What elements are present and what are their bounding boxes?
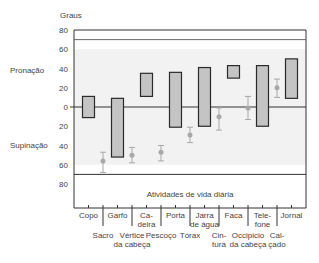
data-point bbox=[130, 153, 135, 158]
band-label: Atividades de vida diária bbox=[147, 190, 234, 199]
category-label: Ca- bbox=[140, 211, 153, 220]
y-axis-title: Graus bbox=[60, 11, 82, 20]
category-label: Porta bbox=[166, 211, 186, 220]
range-bar bbox=[141, 73, 153, 96]
range-bar bbox=[83, 96, 95, 117]
category-label: fone bbox=[255, 220, 271, 229]
category-label: Faca bbox=[225, 211, 243, 220]
y-tick-label: 20 bbox=[59, 122, 68, 131]
data-point bbox=[217, 114, 222, 119]
y-tick-label: 80 bbox=[59, 180, 68, 189]
y-tick-label: 0 bbox=[64, 103, 69, 112]
data-point bbox=[246, 105, 251, 110]
point-label: Sacro bbox=[93, 231, 114, 240]
category-label: de água bbox=[190, 220, 219, 229]
chart: 80604020020406080 CopoGarfoCa-deiraPorta… bbox=[0, 0, 319, 263]
supination-label: Supinação bbox=[10, 141, 48, 150]
range-bar bbox=[112, 98, 124, 157]
category-label: Garfo bbox=[107, 211, 128, 220]
range-bar bbox=[170, 72, 182, 127]
point-label: Cal- bbox=[270, 231, 285, 240]
data-point bbox=[275, 85, 280, 90]
y-axis: 80604020020406080 bbox=[59, 26, 74, 189]
category-label: Copo bbox=[79, 211, 99, 220]
point-label: Vértice bbox=[120, 231, 145, 240]
point-label: Cin- bbox=[212, 231, 227, 240]
data-point bbox=[188, 132, 193, 137]
point-label: Occipicio bbox=[232, 231, 265, 240]
category-label: deira bbox=[138, 220, 156, 229]
point-label: tura bbox=[212, 240, 226, 249]
range-bar bbox=[257, 66, 269, 127]
data-point bbox=[159, 150, 164, 155]
point-label: Tórax bbox=[180, 231, 200, 240]
y-tick-label: 60 bbox=[59, 161, 68, 170]
point-label: da cabeça bbox=[230, 240, 267, 249]
category-label: Jarra bbox=[195, 211, 214, 220]
range-bar bbox=[286, 59, 298, 98]
point-label: çado bbox=[268, 240, 286, 249]
y-tick-label: 40 bbox=[59, 65, 68, 74]
range-bar bbox=[228, 66, 240, 79]
pronation-label: Pronação bbox=[10, 66, 45, 75]
x-axis: CopoGarfoCa-deiraPortaJarrade águaFacaTe… bbox=[79, 205, 303, 249]
category-label: Tele- bbox=[254, 211, 272, 220]
point-label: da cabeça bbox=[114, 240, 151, 249]
range-bar bbox=[199, 68, 211, 127]
y-tick-label: 40 bbox=[59, 142, 68, 151]
category-label: Jornal bbox=[281, 211, 303, 220]
y-tick-label: 80 bbox=[59, 26, 68, 35]
y-tick-label: 20 bbox=[59, 84, 68, 93]
point-label: Pescoço bbox=[146, 231, 177, 240]
data-point bbox=[101, 158, 106, 163]
y-tick-label: 60 bbox=[59, 45, 68, 54]
